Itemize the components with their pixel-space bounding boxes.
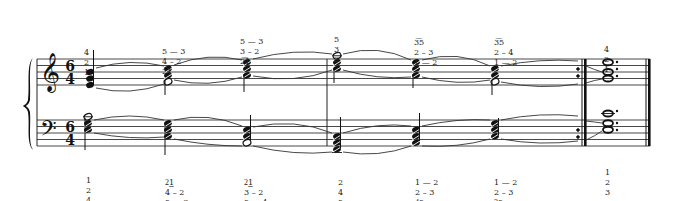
treble-clef-icon: 𝄞 bbox=[40, 51, 60, 93]
chord-lower-1 bbox=[83, 113, 93, 150]
fingering-upper-6: 3͡52 – 41 — 2 bbox=[494, 18, 517, 78]
chord-lower-4 bbox=[332, 117, 342, 153]
fingering-lower-1: 124 bbox=[86, 156, 91, 201]
time-signature-upper: 6 4 bbox=[65, 58, 75, 87]
fingering-lower-2: 2͜14 – 25 — 3 bbox=[165, 158, 188, 201]
fingering-lower-4: 245 bbox=[338, 158, 343, 201]
fingering-lower-7: 123 bbox=[605, 148, 610, 201]
fingering-lower-5: 1 — 22 – 34͜5 bbox=[415, 158, 438, 201]
chord-lower-6 bbox=[490, 118, 500, 140]
fingering-upper-3: 5 — 33 – 22͡1 bbox=[240, 17, 263, 77]
chord-lower-5 bbox=[411, 113, 421, 147]
fingering-upper-5: 3͡52 – 31 — 2 bbox=[414, 18, 437, 78]
brace bbox=[23, 58, 33, 150]
svg-text:4: 4 bbox=[65, 71, 75, 87]
fingering-upper-4: 532 bbox=[334, 15, 339, 75]
bass-clef-icon: 𝄢 bbox=[40, 116, 57, 146]
svg-text:4: 4 bbox=[65, 132, 75, 148]
fingering-lower-6: 1 — 22 – 33͜5 bbox=[494, 158, 517, 201]
fingering-upper-2: 5 — 34 – 22͡1 bbox=[162, 27, 185, 87]
chord-lower-2 bbox=[163, 119, 173, 155]
time-signature-lower: 6 4 bbox=[65, 119, 75, 148]
chord-lower-7 bbox=[601, 110, 618, 133]
fingering-upper-1: 421 bbox=[84, 28, 89, 88]
fingering-upper-7: 421 bbox=[604, 25, 609, 85]
fingering-lower-3: 2͜13 – 25 — 4 bbox=[244, 158, 267, 201]
